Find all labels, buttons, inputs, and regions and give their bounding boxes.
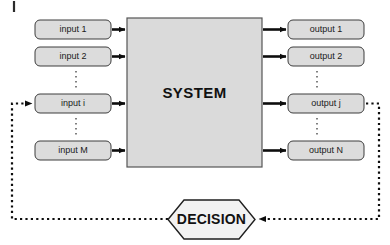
decision-block-label: DECISION <box>177 211 246 227</box>
input-box-i-label: input i <box>61 98 85 108</box>
feedback-path-output-to-decision <box>259 104 379 220</box>
output-box-j-label: output j <box>311 98 341 108</box>
system-block-label: SYSTEM <box>162 84 226 101</box>
output-box-1-label: output 1 <box>310 24 343 34</box>
system-block-diagram: SYSTEM input 1 input 2 input i input M o… <box>0 0 390 245</box>
diagram-canvas: SYSTEM input 1 input 2 input i input M o… <box>0 0 390 245</box>
output-box-2-label: output 2 <box>310 51 343 61</box>
input-box-1-label: input 1 <box>59 24 86 34</box>
input-box-m-label: input M <box>58 145 88 155</box>
output-box-n-label: output N <box>309 145 343 155</box>
input-box-2-label: input 2 <box>59 51 86 61</box>
